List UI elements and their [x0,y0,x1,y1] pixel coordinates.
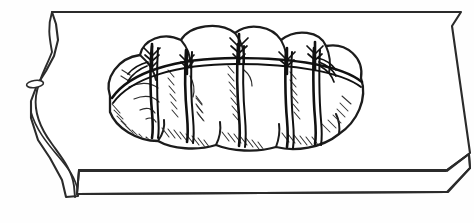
roast-on-board-illustration [0,0,474,223]
trussed-roast-group [109,26,364,151]
illustration-canvas: Trussed roast on a wooden cutting board … [0,0,474,223]
board-right-edge-vertical [469,154,470,168]
